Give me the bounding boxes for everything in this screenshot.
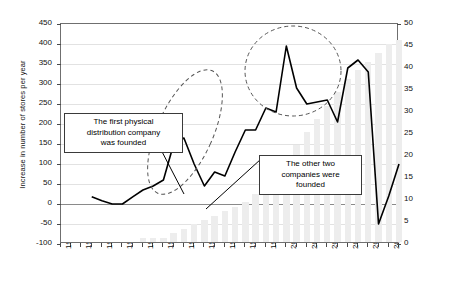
y-axis-left-tick — [57, 244, 61, 245]
callout-1-line-1: The first physical — [70, 117, 177, 128]
y-axis-left-tick-label: 50 — [18, 178, 52, 187]
y-axis-right-tick-label: 50 — [404, 18, 428, 27]
y-axis-right-tick-label: 0 — [404, 238, 428, 247]
callout-2-line-3: founded — [265, 180, 356, 191]
chart-figure: Increase in number of stores per year Ac… — [0, 0, 454, 298]
y-axis-right-tick-label: 25 — [404, 128, 428, 137]
callout-2-line-1: The other two — [265, 159, 356, 170]
y-axis-left-tick-label: 400 — [18, 38, 52, 47]
y-axis-left-tick-label: 350 — [18, 58, 52, 67]
y-axis-left-tick-label: -50 — [18, 218, 52, 227]
callout-1-line-3: was founded — [70, 138, 177, 149]
y-axis-left-tick-label: 100 — [18, 158, 52, 167]
y-axis-right-tick-label: 5 — [404, 216, 428, 225]
y-axis-right-tick-label: 45 — [404, 40, 428, 49]
y-axis-left-tick-label: 300 — [18, 78, 52, 87]
y-axis-left-tick-label: 150 — [18, 138, 52, 147]
y-axis-right-tick — [397, 244, 401, 245]
y-axis-right-tick-label: 10 — [404, 194, 428, 203]
y-axis-right-tick-label: 30 — [404, 106, 428, 115]
y-axis-left-tick-label: -100 — [18, 238, 52, 247]
y-axis-left-tick-label: 0 — [18, 198, 52, 207]
y-axis-right-tick-label: 35 — [404, 84, 428, 93]
y-axis-right-tick-label: 15 — [404, 172, 428, 181]
callout-2-line-2: companies were — [265, 170, 356, 181]
y-axis-left-tick-label: 450 — [18, 18, 52, 27]
callout-first-company: The first physical distribution company … — [64, 113, 183, 153]
y-axis-left-tick-label: 250 — [18, 98, 52, 107]
callout-2-leader-line — [206, 159, 261, 209]
callout-1-line-2: distribution company — [70, 128, 177, 139]
callout-other-companies: The other two companies were founded — [259, 155, 362, 195]
y-axis-left-tick-label: 200 — [18, 118, 52, 127]
y-axis-right-tick-label: 20 — [404, 150, 428, 159]
y-axis-right-tick-label: 40 — [404, 62, 428, 71]
